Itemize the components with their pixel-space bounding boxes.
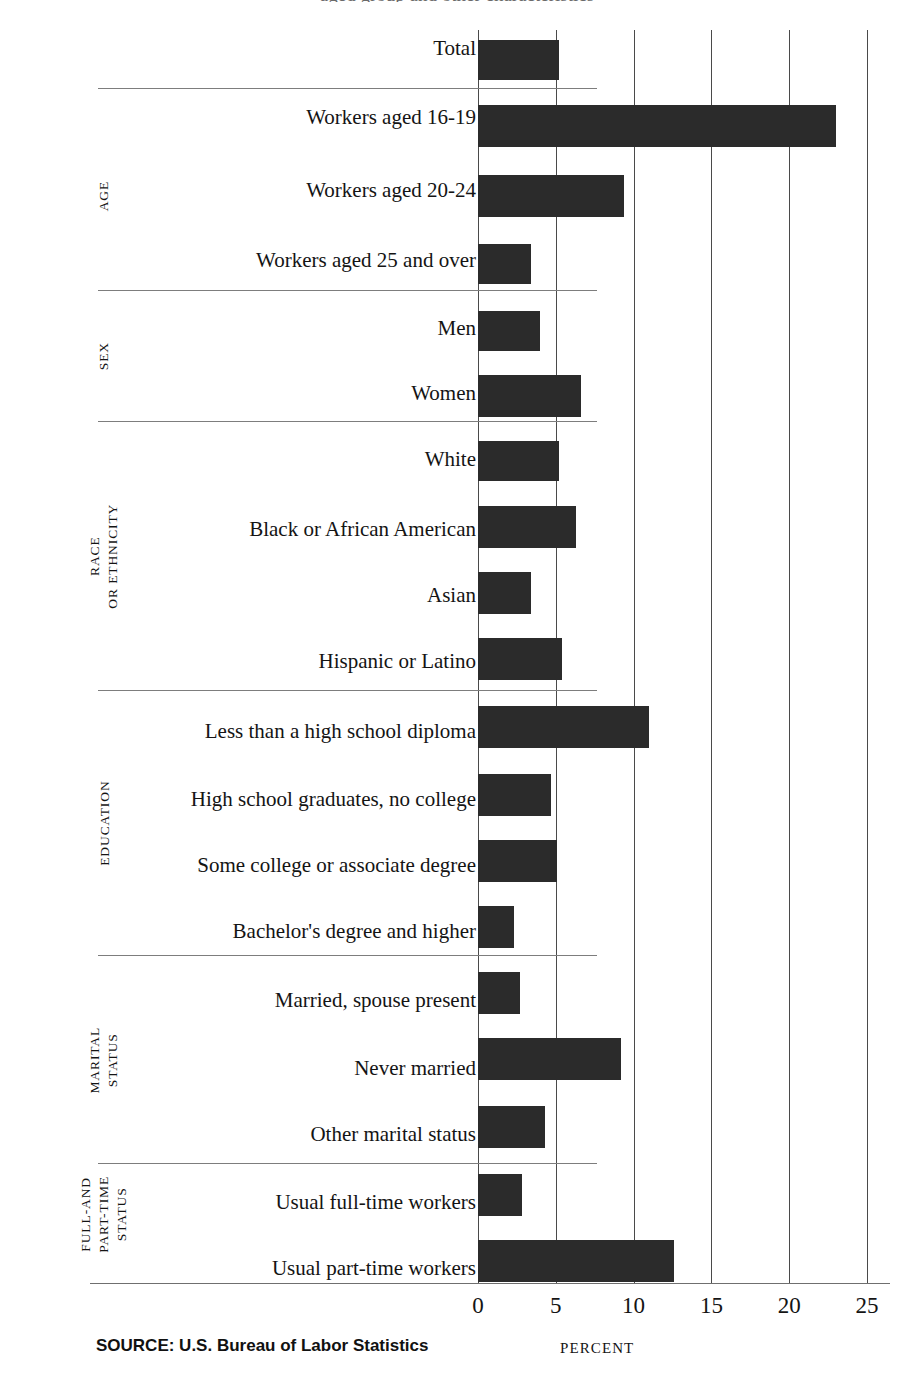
group-label-line: STATUS (113, 1175, 131, 1252)
group-label-line: OR ETHNICITY (104, 504, 122, 609)
row-label: Hispanic or Latino (319, 651, 476, 672)
bar-chart-figure: aged group and other characteristics Tot… (0, 0, 914, 1383)
gridline-10 (634, 30, 635, 1283)
row-label: Workers aged 16-19 (306, 107, 476, 128)
row-label: Usual full-time workers (275, 1192, 476, 1213)
group-separator (98, 290, 597, 291)
group-label: SEX (95, 342, 113, 370)
row-label: Other marital status (310, 1124, 476, 1145)
group-label-line: SEX (95, 342, 113, 370)
bar (478, 244, 531, 284)
bar (478, 105, 836, 147)
bar (478, 1174, 522, 1216)
x-tick-label: 20 (764, 1293, 814, 1319)
x-axis-line (90, 1283, 890, 1284)
gridline-20 (789, 30, 790, 1283)
bar (478, 972, 520, 1014)
row-label: Workers aged 20-24 (306, 180, 476, 201)
row-label: White (425, 449, 476, 470)
x-tick-label: 25 (842, 1293, 892, 1319)
group-label-line: AGE (95, 181, 113, 211)
bar (478, 1240, 674, 1282)
bar (478, 40, 559, 80)
bar (478, 175, 624, 217)
group-label: EDUCATION (95, 780, 113, 865)
group-separator (98, 88, 597, 89)
group-label-line: EDUCATION (95, 780, 113, 865)
row-label: Married, spouse present (275, 990, 476, 1011)
bar (478, 1106, 545, 1148)
row-label: Never married (354, 1058, 476, 1079)
gridline-15 (711, 30, 712, 1283)
row-label: Less than a high school diploma (205, 721, 476, 742)
row-label: Black or African American (249, 519, 476, 540)
bar (478, 572, 531, 614)
group-separator (98, 690, 597, 691)
row-label: Usual part-time workers (272, 1258, 476, 1279)
group-label-line: MARITAL (86, 1027, 104, 1094)
group-separator (98, 1163, 597, 1164)
group-separator (98, 955, 597, 956)
row-label: Women (411, 383, 476, 404)
bar (478, 706, 649, 748)
x-axis-title: PERCENT (560, 1340, 634, 1357)
bar (478, 840, 557, 882)
row-label: Men (438, 318, 477, 339)
x-tick-label: 0 (453, 1293, 503, 1319)
group-label-line: RACE (86, 504, 104, 609)
bar (478, 441, 559, 481)
bar (478, 375, 581, 417)
row-label: Asian (427, 585, 476, 606)
bar (478, 506, 576, 548)
row-label: Total (433, 38, 476, 59)
x-tick-label: 15 (686, 1293, 736, 1319)
group-label-line: PART-TIME (95, 1175, 113, 1252)
row-label: Bachelor's degree and higher (233, 921, 476, 942)
row-label: High school graduates, no college (191, 789, 476, 810)
bar (478, 638, 562, 680)
plot-area: TotalWorkers aged 16-19Workers aged 20-2… (0, 0, 914, 1383)
group-separator (98, 421, 597, 422)
group-label: FULL-ANDPART-TIMESTATUS (77, 1175, 132, 1252)
gridline-25 (867, 30, 868, 1283)
group-label: MARITALSTATUS (86, 1027, 122, 1094)
bar (478, 774, 551, 816)
group-label: RACEOR ETHNICITY (86, 504, 122, 609)
bar (478, 1038, 621, 1080)
bar (478, 311, 540, 351)
source-note: SOURCE: U.S. Bureau of Labor Statistics (96, 1336, 429, 1356)
row-label: Some college or associate degree (197, 855, 476, 876)
group-label: AGE (95, 181, 113, 211)
group-label-line: FULL-AND (77, 1175, 95, 1252)
x-tick-label: 5 (531, 1293, 581, 1319)
row-label: Workers aged 25 and over (256, 250, 476, 271)
bar (478, 906, 514, 948)
x-tick-label: 10 (609, 1293, 659, 1319)
group-label-line: STATUS (104, 1027, 122, 1094)
